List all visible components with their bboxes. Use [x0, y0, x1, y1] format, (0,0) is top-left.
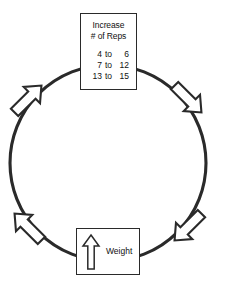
reps-to: 12: [115, 60, 129, 71]
reps-connector: to: [102, 71, 115, 82]
cycle-diagram: Increase # of Reps 4 to 6 7 to 12 13 to …: [0, 0, 229, 289]
reps-connector: to: [102, 49, 115, 60]
arrow-upper-left: [6, 77, 49, 120]
reps-connector: to: [102, 60, 115, 71]
weight-label: Weight: [106, 246, 132, 257]
node-increase-weight: Weight: [76, 228, 140, 275]
reps-row: 7 to 12: [88, 60, 129, 71]
up-arrow-outline-icon: [81, 233, 101, 271]
arrow-lower-left: [6, 205, 49, 248]
reps-row: 4 to 6: [88, 49, 129, 60]
flow-arrow-icon: [6, 77, 49, 120]
flow-arrow-icon: [6, 205, 49, 248]
node-increase-reps: Increase # of Reps 4 to 6 7 to 12 13 to …: [80, 13, 137, 90]
flow-arrow-icon: [166, 205, 209, 248]
arrow-lower-right: [166, 205, 209, 248]
reps-from: 4: [88, 49, 102, 60]
reps-row: 13 to 15: [88, 71, 129, 82]
reps-to: 6: [115, 49, 129, 60]
reps-to: 15: [115, 71, 129, 82]
arrow-upper-right: [166, 77, 209, 120]
flow-arrow-icon: [166, 77, 209, 120]
reps-from: 7: [88, 60, 102, 71]
reps-title-line-2: # of Reps: [81, 31, 136, 42]
reps-title-line-1: Increase: [81, 20, 136, 31]
reps-rows: 4 to 6 7 to 12 13 to 15: [81, 49, 136, 82]
reps-from: 13: [88, 71, 102, 82]
